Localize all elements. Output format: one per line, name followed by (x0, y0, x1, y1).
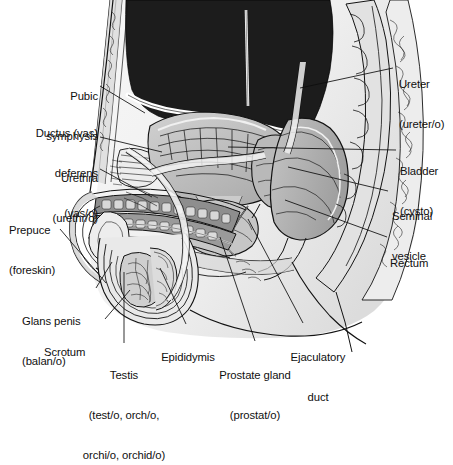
label-combining-form: (test/o, orch/o, (64, 409, 184, 422)
label-ureter: Ureter (ureter/o) (399, 52, 453, 144)
label-ejaculatory-duct: Ejaculatory duct (277, 325, 359, 417)
label-combining-form: (foreskin) (9, 264, 99, 277)
label-combining-form-2: orchi/o, orchid/o) (64, 449, 184, 462)
label-term: Prepuce (9, 224, 99, 237)
label-term: Ejaculatory (277, 351, 359, 364)
label-term: Ureter (399, 78, 453, 91)
label-rectum: Rectum (390, 231, 450, 284)
label-term: Rectum (390, 257, 450, 270)
label-prepuce: Prepuce (foreskin) (9, 198, 99, 290)
label-combining-form: (ureter/o) (399, 118, 453, 131)
label-term: Ductus (vas) (10, 127, 98, 140)
label-term: Seminal (392, 210, 453, 223)
label-term2: duct (277, 391, 359, 404)
label-term: Urethra (14, 172, 98, 185)
label-term: Bladder (400, 165, 453, 178)
